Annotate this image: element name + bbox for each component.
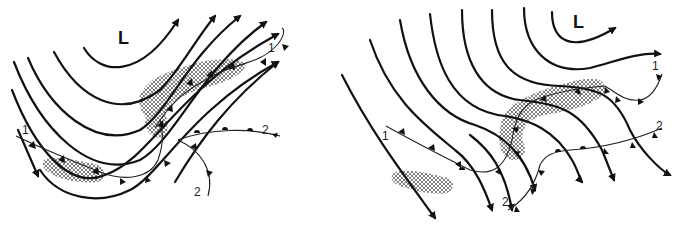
low-pressure-label: L bbox=[573, 12, 584, 32]
front-label: 1 bbox=[652, 59, 659, 73]
front-label: 2 bbox=[194, 185, 201, 199]
streamline bbox=[14, 22, 266, 164]
front-label: 2 bbox=[262, 123, 269, 137]
streamline bbox=[342, 75, 435, 218]
low-pressure-label: L bbox=[118, 28, 129, 48]
right-diagram: L 1 1 2 2 bbox=[340, 0, 681, 230]
left-diagram: L 1 1 2 2 bbox=[0, 0, 340, 230]
front-label: 2 bbox=[502, 195, 509, 209]
front-label: 2 bbox=[656, 119, 663, 133]
left-panel: L 1 1 2 2 bbox=[0, 0, 340, 230]
streamline bbox=[84, 20, 178, 67]
front-2 bbox=[508, 128, 662, 210]
right-panel: L 1 1 2 2 bbox=[340, 0, 681, 230]
front-label: 1 bbox=[22, 123, 29, 137]
front-label: 1 bbox=[382, 129, 389, 143]
precipitation-area bbox=[392, 171, 453, 194]
front-label: 1 bbox=[268, 41, 275, 55]
